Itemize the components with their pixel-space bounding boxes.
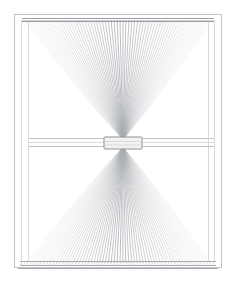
curtain-tie-band	[104, 137, 142, 149]
curtain-sketch-canvas: Window with Tied Sheer Curtain	[0, 0, 246, 281]
